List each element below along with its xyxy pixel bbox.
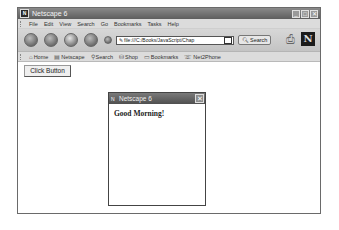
window-title: Netscape 6 (32, 10, 292, 17)
url-bar[interactable]: ✎ file:///C:/Books/JavaScript/Chap (116, 36, 234, 45)
bookmarks-icon: ▭ (144, 53, 150, 60)
close-button[interactable]: ✕ (310, 10, 318, 18)
url-dropdown-icon[interactable] (224, 37, 232, 44)
personal-toolbar: ⌂ Home ▤ Netscape ⚲ Search ⛁ Shop ▭ Book… (18, 52, 320, 62)
throbber-area: ⎙ N (286, 32, 315, 46)
personal-item-label: Shop (125, 54, 138, 60)
netscape-icon: ▤ (54, 53, 60, 60)
maximize-button[interactable]: □ (301, 10, 309, 18)
toolbar-grip[interactable] (20, 54, 23, 60)
menu-search[interactable]: Search (77, 21, 94, 27)
personal-item-label: Bookmarks (151, 54, 179, 60)
personal-item-net2phone[interactable]: ☏ Net2Phone (184, 53, 221, 60)
window-controls: _ □ ✕ (292, 10, 318, 18)
personal-item-bookmarks[interactable]: ▭ Bookmarks (144, 53, 179, 60)
url-text: file:///C:/Books/JavaScript/Chap (124, 37, 194, 44)
menu-edit[interactable]: Edit (44, 21, 53, 27)
forward-button[interactable] (44, 33, 58, 47)
personal-item-label: Search (96, 54, 113, 60)
reload-button[interactable] (64, 33, 78, 47)
personal-item-label: Home (34, 54, 49, 60)
personal-item-label: Netscape (61, 54, 84, 60)
netscape-app-icon: N (111, 96, 117, 102)
menu-help[interactable]: Help (168, 21, 179, 27)
personal-item-label: Net2Phone (193, 54, 221, 60)
menu-tasks[interactable]: Tasks (147, 21, 161, 27)
popup-message: Good Morning! (109, 104, 205, 123)
print-icon[interactable]: ⎙ (286, 33, 295, 46)
home-icon: ⌂ (29, 54, 33, 60)
click-button[interactable]: Click Button (24, 65, 71, 77)
search-button-label: Search (250, 36, 267, 44)
popup-window: N Netscape 6 ✕ Good Morning! (108, 92, 206, 206)
netscape-app-icon: N (20, 9, 29, 18)
menu-bookmarks[interactable]: Bookmarks (114, 21, 142, 27)
menu-view[interactable]: View (59, 21, 71, 27)
home-nav-button[interactable] (104, 36, 112, 44)
toolbar-grip[interactable] (20, 21, 23, 27)
back-button[interactable] (24, 33, 38, 47)
personal-item-netscape[interactable]: ▤ Netscape (54, 53, 84, 60)
search-button[interactable]: 🔍︎ Search (238, 35, 271, 45)
navigation-toolbar: ✎ file:///C:/Books/JavaScript/Chap 🔍︎ Se… (18, 29, 320, 52)
menu-bar: File Edit View Search Go Bookmarks Tasks… (18, 19, 320, 29)
page-icon: ✎ (119, 37, 123, 44)
phone-icon: ☏ (184, 53, 192, 60)
title-bar: N Netscape 6 _ □ ✕ (18, 8, 320, 19)
netscape-logo-throbber[interactable]: N (301, 32, 315, 46)
search-icon: 🔍︎ (242, 36, 249, 44)
personal-item-search[interactable]: ⚲ Search (91, 53, 113, 60)
personal-item-shop[interactable]: ⛁ Shop (119, 53, 138, 60)
personal-item-home[interactable]: ⌂ Home (29, 54, 48, 60)
menu-go[interactable]: Go (101, 21, 108, 27)
minimize-button[interactable]: _ (292, 10, 300, 18)
popup-close-button[interactable]: ✕ (195, 94, 204, 103)
popup-title-bar: N Netscape 6 ✕ (109, 93, 205, 104)
stop-button[interactable] (84, 33, 98, 47)
popup-title: Netscape 6 (119, 95, 195, 102)
shop-icon: ⛁ (119, 53, 124, 60)
search-icon: ⚲ (91, 53, 95, 60)
menu-file[interactable]: File (29, 21, 38, 27)
